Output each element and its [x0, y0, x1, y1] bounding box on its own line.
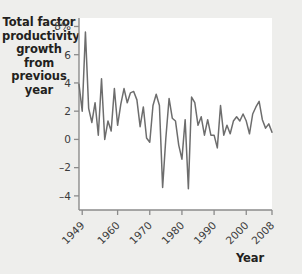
y-tick-label: 8% — [54, 20, 71, 32]
y-tick-label: –2 — [59, 161, 71, 173]
x-tick-label: 1990 — [191, 219, 218, 246]
chart-figure: Total factor productivity growth from pr… — [0, 0, 302, 274]
y-tick-label: 4 — [64, 77, 71, 89]
x-tick-label: 1960 — [95, 219, 122, 246]
line-chart-plot: 8%6420–2–4 1949196019701980199020002008 — [0, 0, 302, 274]
x-tick-label: 1970 — [127, 219, 154, 246]
x-axis-ticks: 1949196019701980199020002008 — [59, 210, 276, 246]
y-tick-label: 6 — [64, 49, 71, 61]
y-tick-label: –4 — [59, 190, 71, 202]
x-tick-label: 2008 — [249, 219, 276, 246]
y-axis-ticks: 8%6420–2–4 — [54, 20, 79, 201]
x-tick-label: 1980 — [159, 219, 186, 246]
x-tick-label: 1949 — [59, 219, 86, 246]
y-tick-label: 2 — [64, 105, 71, 117]
y-tick-label: 0 — [64, 133, 71, 145]
x-tick-label: 2000 — [223, 219, 250, 246]
